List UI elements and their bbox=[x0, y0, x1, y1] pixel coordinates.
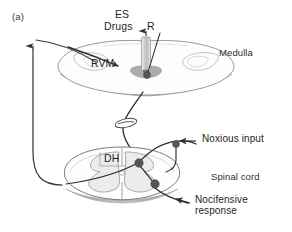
primary-afferent-soma bbox=[173, 141, 180, 148]
spinal-cord-cross-section bbox=[64, 147, 179, 203]
recording-label: R bbox=[147, 21, 155, 32]
dh-label: DH bbox=[104, 153, 119, 164]
medulla-label: Medulla bbox=[219, 48, 253, 58]
rvm-neuron bbox=[144, 72, 151, 79]
noxious-input-label: Noxious input bbox=[202, 134, 264, 145]
rvm-label: RVM bbox=[91, 58, 114, 69]
drugs-label: Drugs bbox=[104, 21, 133, 32]
es-drugs-cannula bbox=[142, 31, 151, 78]
spinal-cord-label: Spinal cord bbox=[211, 172, 260, 182]
nocifensive-response-label: Nocifensive response bbox=[195, 195, 248, 216]
panel-label: (a) bbox=[12, 12, 24, 22]
pathway-break-ellipse bbox=[114, 117, 137, 130]
ventral-horn-motoneuron bbox=[151, 180, 159, 188]
cannula-barrel bbox=[142, 37, 151, 71]
es-label: ES bbox=[115, 9, 129, 20]
pain-modulation-diagram: (a) ES Drugs R RVM Medulla DH Spinal cor… bbox=[0, 0, 292, 232]
dorsal-horn-neuron bbox=[135, 159, 143, 167]
nocifensive-response-arrow bbox=[176, 199, 190, 203]
diagram-canvas bbox=[0, 0, 292, 232]
